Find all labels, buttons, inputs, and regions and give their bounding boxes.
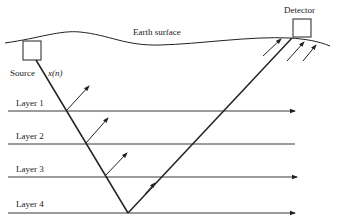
source-box [23,41,41,60]
reflection-arrow-icon [105,153,127,176]
source-label: Source [10,68,35,78]
reflected-ray-arrow-icon [145,183,155,194]
reflection-arrow-icon [66,86,89,111]
reflected-ray [128,38,292,213]
earth-surface-label: Earth surface [133,27,181,37]
layer-3-label: Layer 3 [16,164,44,174]
detector-box [293,19,311,37]
layer-4-label: Layer 4 [16,199,44,209]
layer-1-label: Layer 1 [16,98,44,108]
reflection-arrow-icon [86,118,108,143]
signal-label: x(n) [47,68,63,78]
detector-label: Detector [284,5,315,15]
layer-2-label: Layer 2 [16,131,44,141]
arrival-arrow-icon [303,45,316,61]
incident-ray [36,60,128,213]
seismic-diagram: Earth surface Detector Source x(n) Layer… [0,0,337,222]
arrival-arrow-icon [287,42,304,61]
